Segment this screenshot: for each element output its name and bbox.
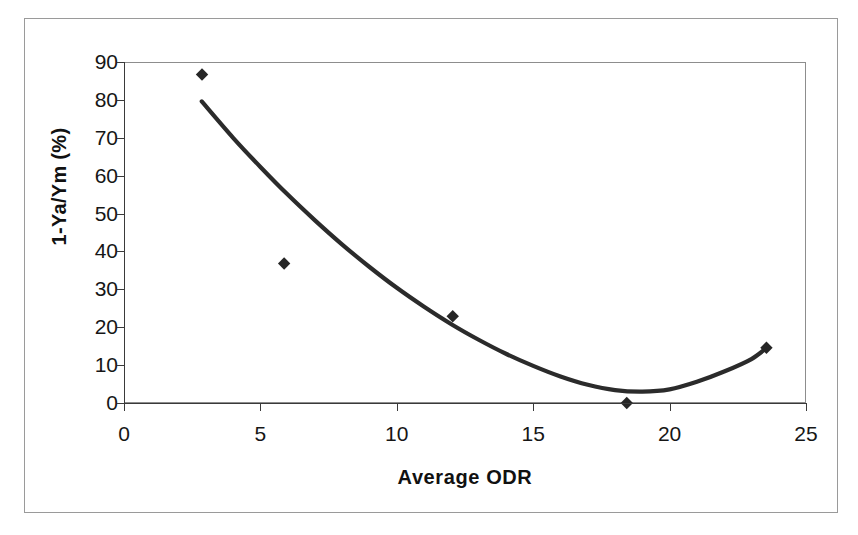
x-tick-mark [124,403,125,411]
x-tick-mark [397,403,398,411]
x-tick-mark [806,403,807,411]
y-tick-mark [117,289,125,290]
x-axis-line [124,403,807,404]
y-tick-mark [117,138,125,139]
y-tick-label: 50 [78,203,118,224]
x-tick-label: 0 [94,423,154,444]
data-point-marker [278,257,290,269]
y-tick-mark [117,62,125,63]
y-tick-label: 20 [78,316,118,337]
plot-svg [124,62,806,403]
y-tick-mark [117,176,125,177]
y-tick-label: 70 [78,127,118,148]
trend-line [202,101,768,391]
x-tick-mark [260,403,261,411]
y-tick-mark [117,365,125,366]
y-tick-label: 60 [78,165,118,186]
x-tick-mark [533,403,534,411]
y-tick-mark [117,214,125,215]
y-tick-label: 30 [78,278,118,299]
chart-figure: 0102030405060708090 0510152025 1-Ya/Ym (… [0,0,858,535]
x-tick-mark [670,403,671,411]
data-point-markers [196,68,773,409]
y-axis-tick-labels: 0102030405060708090 [68,0,118,535]
y-tick-mark [117,251,125,252]
y-tick-label: 40 [78,240,118,261]
y-axis-title: 1-Ya/Ym (%) [48,82,71,292]
y-tick-mark [117,327,125,328]
y-tick-mark [117,100,125,101]
y-tick-label: 90 [78,51,118,72]
y-tick-label: 10 [78,354,118,375]
data-point-marker [196,68,208,80]
x-tick-label: 25 [776,423,836,444]
x-tick-label: 10 [367,423,427,444]
y-axis-line [124,62,125,404]
x-tick-label: 5 [230,423,290,444]
fitted-curve [202,101,768,391]
x-axis-title: Average ODR [124,466,806,489]
x-tick-label: 20 [640,423,700,444]
x-tick-label: 15 [503,423,563,444]
y-tick-label: 80 [78,89,118,110]
y-tick-label: 0 [78,392,118,413]
